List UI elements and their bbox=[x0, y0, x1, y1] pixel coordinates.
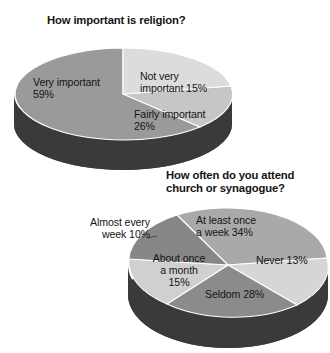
pie-charts-figure: How important is religion? Very importan… bbox=[0, 0, 330, 353]
label-fairly-important: Fairly important 26% bbox=[134, 108, 205, 132]
chart-title-attendance: How often do you attend church or synago… bbox=[166, 169, 294, 195]
label-seldom: Seldom 28% bbox=[205, 288, 264, 300]
chart-title-religion-importance: How important is religion? bbox=[47, 14, 186, 27]
label-never: Never 13% bbox=[256, 254, 308, 266]
label-at-least-once-a-week: At least once a week 34% bbox=[196, 214, 256, 238]
label-almost-every-week: Almost every week 10% bbox=[65, 216, 150, 240]
label-very-important: Very important 59% bbox=[33, 76, 100, 100]
label-not-very-important: Not very important 15% bbox=[140, 70, 207, 94]
label-about-once-a-month: About once a month 15% bbox=[143, 252, 215, 289]
